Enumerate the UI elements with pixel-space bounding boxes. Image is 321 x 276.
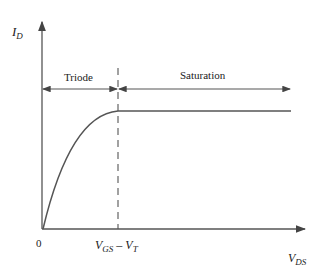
- diagram-graphics: [0, 0, 321, 276]
- x-axis-label: VDS: [288, 252, 306, 267]
- threshold-label: VGS – VT: [95, 239, 138, 254]
- saturation-label: Saturation: [180, 70, 225, 81]
- origin-label: 0: [36, 238, 42, 249]
- triode-label: Triode: [64, 72, 93, 83]
- y-axis-label: ID: [12, 25, 23, 41]
- id-vds-diagram: ID Triode Saturation 0 VGS – VT VDS: [0, 0, 321, 276]
- id-curve: [43, 111, 291, 229]
